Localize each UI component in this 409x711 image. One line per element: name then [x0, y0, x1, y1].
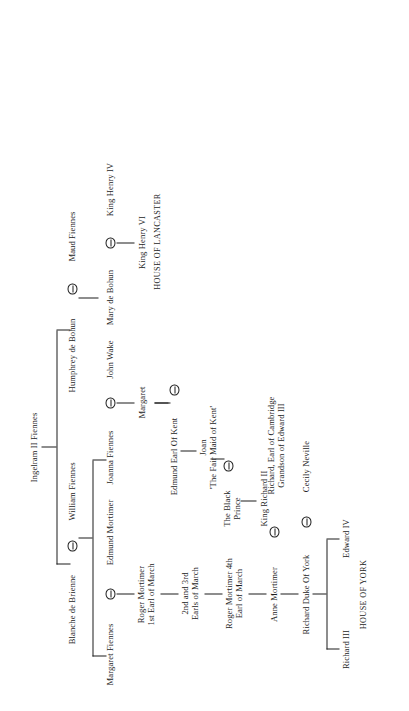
marriage-symbol-margaret-edmund	[105, 588, 115, 599]
marriage-symbol-mary-henryiv	[105, 237, 115, 248]
node-house-of-york: HOUSE OF YORK	[358, 534, 368, 654]
connector-kent-stem	[180, 450, 196, 451]
node-richard-iii: Richard III	[340, 607, 350, 691]
connector-mary-henryiv-stem	[116, 242, 134, 243]
connector-to-richard-iii	[326, 648, 339, 649]
marriage-symbol-edmund-kent-margaret	[169, 384, 179, 395]
connector-york-children-stem	[312, 593, 326, 594]
connector-roger1st-stem	[160, 593, 178, 594]
marriage-symbol-anne-richard-cambridge	[269, 526, 279, 537]
node-mary-de-bohun: Mary de Bohun	[104, 249, 114, 345]
node-edward-iv: Edward IV	[340, 497, 350, 579]
node-richard-earl-of-cambridge: Richard, Earl of Cambridge Grandson of E…	[266, 365, 286, 525]
node-maud-fiennes: Maud Fiennes	[66, 191, 76, 281]
node-2nd-3rd-earls-of-march: 2nd and 3rd Earls of March	[180, 541, 200, 645]
connector-york-children-bar	[326, 539, 327, 649]
node-blanche-de-brienne: Blanche de Brienne	[66, 555, 76, 663]
connector-william-stem	[78, 537, 92, 538]
genealogy-chart-page: Ingelram II Fiennes Blanche de Brienne W…	[0, 0, 409, 711]
connector-joan-down	[210, 458, 224, 459]
genealogy-canvas: Ingelram II Fiennes Blanche de Brienne W…	[0, 0, 409, 711]
black-prince-line1: The Black	[222, 473, 232, 543]
node-king-henry-iv: King Henry IV	[104, 142, 114, 236]
connector-ingelram-stem	[41, 446, 56, 447]
connector-to-edward-iv	[326, 538, 339, 539]
node-roger-mortimer-1st: Roger Mortimer 1st Earl of March	[136, 539, 156, 649]
node-edmund-earl-of-kent: Edmund Earl Of Kent	[168, 397, 178, 515]
node-the-black-prince: The Black Prince	[222, 473, 242, 543]
earls-line1: 2nd and 3rd	[180, 541, 190, 645]
marriage-symbol-joanna-john	[105, 397, 115, 408]
connector-margaret-down	[154, 402, 170, 403]
roger-mortimer-1st-line2: 1st Earl of March	[146, 539, 156, 649]
node-ingelram-ii-fiennes: Ingelram II Fiennes	[28, 397, 38, 497]
marriage-symbol-blanche-william	[67, 540, 77, 551]
marriage-symbol-blackprince-joan	[223, 460, 233, 471]
node-joanna-fiennes: Joanna Fiennes	[104, 409, 114, 505]
connector-earls-stem	[204, 593, 222, 594]
connector-humphrey-stem	[78, 297, 98, 298]
earls-line2: Earls of March	[190, 541, 200, 645]
node-house-of-lancaster: HOUSE OF LANCASTER	[152, 181, 162, 301]
connector-margaret-edmund-stem	[116, 593, 134, 594]
joan-line1: Joan	[198, 383, 208, 511]
node-roger-mortimer-4th: Roger Mortimer 4th Earl of March	[224, 531, 244, 655]
connector-joanna-john-stem	[116, 402, 134, 403]
node-anne-mortimer: Anne Mortimer	[268, 539, 278, 649]
roger-4th-line1: Roger Mortimer 4th	[224, 531, 234, 655]
richard-cambridge-line1: Richard, Earl of Cambridge	[266, 365, 276, 525]
node-richard-duke-of-york: Richard Duke Of York	[300, 529, 310, 659]
roger-mortimer-1st-line1: Roger Mortimer	[136, 539, 146, 649]
node-king-henry-vi: King Henry VI	[136, 195, 146, 289]
connector-anne-richard-stem	[280, 593, 298, 594]
connector-william-children-bar	[92, 460, 93, 656]
roger-4th-line2: Earl of March	[234, 531, 244, 655]
connector-ingelram-bar	[56, 330, 57, 564]
node-humphrey-de-bohun: Humphrey de Bohun	[66, 299, 76, 411]
node-joan-fair-maid-of-kent: Joan 'The Fair Maid of Kent'	[198, 383, 218, 511]
marriage-symbol-humphrey-maud	[67, 283, 77, 294]
node-margaret-fiennes: Margaret Fiennes	[104, 602, 114, 706]
connector-blackprince-stem	[240, 500, 256, 501]
black-prince-line2: Prince	[232, 473, 242, 543]
node-william-fiennes: William Fiennes	[66, 443, 76, 539]
connector-roger4th-stem	[248, 593, 266, 594]
node-cecily-neville: Cecily Neville	[300, 417, 310, 515]
richard-cambridge-line2: Grandson of Edward III	[276, 365, 286, 525]
joan-line2: 'The Fair Maid of Kent'	[208, 383, 218, 511]
node-margaret-wake: Margaret	[136, 363, 146, 441]
marriage-symbol-york-cecily	[301, 516, 311, 527]
